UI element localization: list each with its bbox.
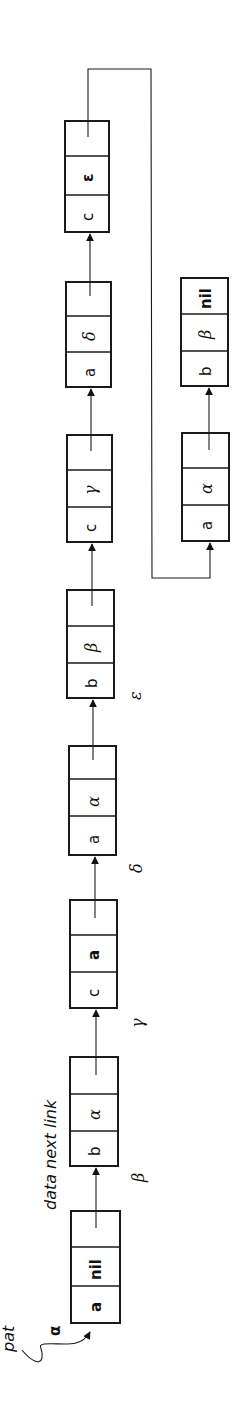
- node-data-cell: c: [82, 524, 100, 532]
- node-address-label: γ: [128, 1018, 147, 1028]
- pat-label: pat: [0, 1325, 18, 1353]
- node-next-cell: nil: [87, 1259, 105, 1280]
- alpha-address-label: α: [46, 1326, 64, 1336]
- node-next-cell: β: [196, 330, 215, 340]
- node-8: c ε: [65, 121, 109, 232]
- node-data-cell: a: [198, 521, 216, 530]
- node-next-cell: α: [84, 796, 103, 807]
- pat-pointer: pat α: [0, 1325, 90, 1362]
- node-next-cell: β: [82, 643, 101, 653]
- node-next-cell: ε: [79, 174, 97, 182]
- node-next-cell: a: [85, 950, 103, 960]
- node-address-label: ε: [126, 691, 145, 700]
- node-epsilon: b β ε: [67, 590, 145, 700]
- node-next-cell: α: [197, 483, 216, 494]
- node-address-label: β: [129, 1173, 148, 1183]
- node-beta: b α β: [70, 1057, 148, 1183]
- node-next-cell: α: [85, 1109, 104, 1120]
- node-gamma: c a γ: [70, 900, 147, 1028]
- node-data-cell: a: [87, 1302, 105, 1312]
- node-data-cell: a: [81, 368, 99, 377]
- node-6: c γ: [67, 435, 112, 542]
- linked-list-diagram: pat α data next link a nil b α β c a γ a: [0, 0, 239, 1425]
- node-7: a δ: [66, 282, 111, 387]
- node-data-cell: c: [85, 989, 103, 997]
- node-data-cell: b: [86, 1146, 104, 1156]
- node-address-label: δ: [127, 863, 146, 873]
- node-data-cell: b: [197, 366, 215, 376]
- node-data-cell: a: [85, 835, 103, 844]
- side-node-1: a α: [182, 433, 229, 541]
- node-next-cell: γ: [81, 485, 100, 495]
- node-next-cell: δ: [80, 331, 99, 341]
- node-data-cell: c: [79, 213, 97, 221]
- side-node-2: b β nil: [181, 278, 228, 386]
- node-link-cell: nil: [197, 288, 215, 309]
- column-header-label: data next link: [41, 1099, 60, 1210]
- node-data-cell: b: [83, 678, 101, 688]
- node-delta: a α δ: [69, 746, 146, 873]
